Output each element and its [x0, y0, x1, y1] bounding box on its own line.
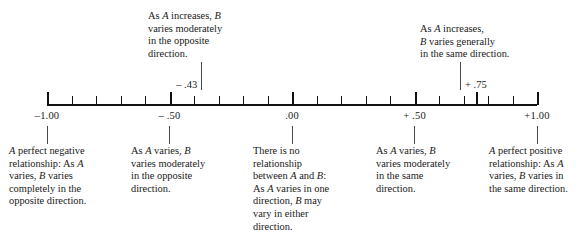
axis-tick [170, 92, 172, 105]
axis-tick [121, 96, 122, 105]
description-text-2: There is no relationship between A and B… [253, 145, 371, 233]
axis-tick [268, 96, 269, 105]
axis-label-0: –1.00 [35, 110, 60, 121]
description-leader-line-2 [292, 126, 293, 144]
axis-tick [464, 96, 465, 105]
callout-value-1: + .75 [465, 79, 487, 90]
axis-tick [145, 96, 146, 105]
callout-leader-line-0 [201, 62, 202, 90]
description-text-0: A perfect negative relationship: As A va… [9, 145, 131, 208]
description-text-3: As A varies, B varies moderately in the … [376, 145, 488, 195]
callout-text-1: As A increases, B varies generally in th… [420, 23, 570, 61]
axis-tick [488, 96, 489, 105]
description-leader-line-3 [414, 126, 415, 144]
axis-tick [537, 92, 539, 105]
callout-leader-line-1 [460, 62, 461, 90]
axis-label-4: +1.00 [524, 110, 549, 121]
axis-tick [194, 96, 195, 105]
axis-tick [243, 96, 244, 105]
axis-tick [476, 92, 478, 105]
description-text-4: A perfect positive relationship: As A va… [489, 145, 584, 195]
axis-tick [366, 96, 367, 105]
axis-label-1: – .50 [159, 110, 181, 121]
correlation-scale-diagram: –1.00– .50.00+ .50+1.00 – .43+ .75 As A … [0, 0, 584, 245]
axis-tick [439, 96, 440, 105]
description-leader-line-4 [537, 126, 538, 144]
description-text-1: As A varies, B varies moderately in the … [131, 145, 243, 195]
axis-tick [415, 92, 417, 105]
axis-tick [341, 96, 342, 105]
axis-tick [219, 96, 220, 105]
callout-value-0: – .43 [176, 79, 197, 90]
axis-tick [513, 96, 514, 105]
axis-label-3: + .50 [403, 110, 426, 121]
description-leader-line-1 [169, 126, 170, 144]
axis-tick [96, 96, 97, 105]
axis-tick [292, 92, 294, 105]
axis-tick [72, 96, 73, 105]
axis-tick [47, 92, 49, 105]
axis-tick [317, 96, 318, 105]
description-leader-line-0 [47, 126, 48, 144]
axis-label-2: .00 [285, 110, 299, 121]
callout-text-0: As A increases, B varies moderately in t… [148, 10, 288, 60]
axis-tick [390, 96, 391, 105]
